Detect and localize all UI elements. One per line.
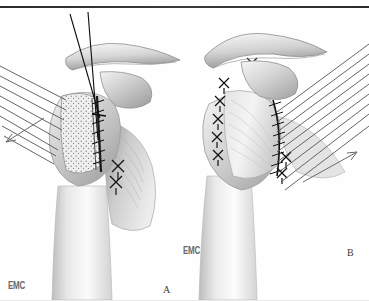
humerus-shaft-b bbox=[199, 176, 257, 300]
panel-b-illustration bbox=[185, 0, 369, 301]
acromion-clavicle-b bbox=[205, 33, 327, 99]
panel-b: EMC B bbox=[185, 0, 369, 301]
panel-a-illustration bbox=[0, 0, 185, 301]
panel-a-label: A bbox=[163, 284, 171, 295]
panel-b-label: B bbox=[347, 247, 354, 258]
lateral-flap-b bbox=[277, 116, 345, 178]
humerus-shaft-a bbox=[52, 186, 112, 300]
credit-emc-left: EMC bbox=[8, 280, 25, 291]
repaired-cuff-b bbox=[224, 91, 279, 179]
credit-emc-right: EMC bbox=[183, 245, 200, 256]
figure-canvas: EMC A bbox=[0, 0, 369, 301]
panel-a: EMC A bbox=[0, 0, 184, 301]
